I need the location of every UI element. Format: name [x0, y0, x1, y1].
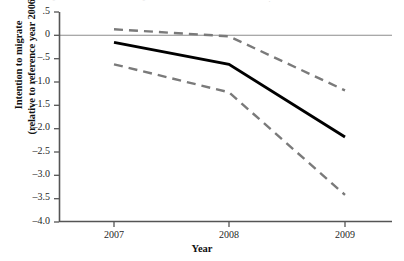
- line-chart-plot: [0, 0, 404, 261]
- point-estimate-line: [114, 42, 345, 137]
- y-axis-title-line-1: Intention to migrate: [13, 0, 26, 175]
- y-axis-ticks: [54, 12, 59, 222]
- chart-figure: ° ° ·: [0, 0, 404, 261]
- y-tick-label-8: –3.5: [16, 191, 50, 202]
- x-axis-title: Year: [0, 243, 404, 254]
- lower-confidence-line: [114, 64, 345, 195]
- x-tick-label-2007: 2007: [92, 229, 136, 240]
- x-axis-ticks: [114, 222, 345, 227]
- y-axis-title: Intention to migrate (relative to refere…: [13, 0, 47, 175]
- upper-confidence-line: [114, 29, 345, 90]
- y-tick-label-9: –4.0: [16, 215, 50, 226]
- x-tick-label-2008: 2008: [207, 229, 251, 240]
- x-tick-label-2009: 2009: [323, 229, 367, 240]
- y-axis-title-line-2: (relative to reference year 2006): [26, 0, 39, 175]
